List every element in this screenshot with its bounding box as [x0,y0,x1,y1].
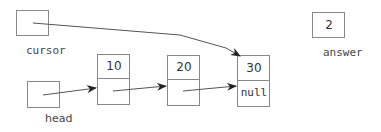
linked-list-diagram: cursor answer head 2 10 20 30 null [0,0,381,132]
answer-value: 2 [313,18,345,32]
cursor-label: cursor [26,45,66,57]
node-20-data: 20 [168,60,200,74]
head-label: head [45,113,72,125]
node-10-data: 10 [98,59,130,73]
node-30-next-null: null [238,86,270,100]
node-30-data: 30 [238,61,270,75]
answer-label: answer [323,47,363,59]
cursor-pointer-box [17,11,49,36]
